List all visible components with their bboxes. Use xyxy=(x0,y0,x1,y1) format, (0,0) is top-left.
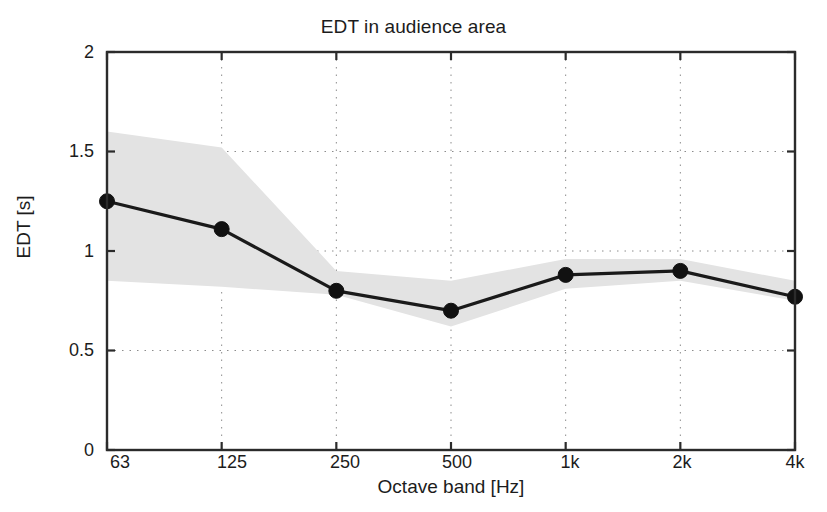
data-point-500 xyxy=(444,303,459,318)
spread-band-area xyxy=(107,132,795,327)
data-point-2k xyxy=(673,263,688,278)
data-point-125 xyxy=(214,222,229,237)
chart-figure: EDT in audience area EDT [s] Octave band… xyxy=(0,0,827,512)
data-point-250 xyxy=(329,283,344,298)
data-point-1k xyxy=(558,267,573,282)
plot-area xyxy=(0,0,827,512)
